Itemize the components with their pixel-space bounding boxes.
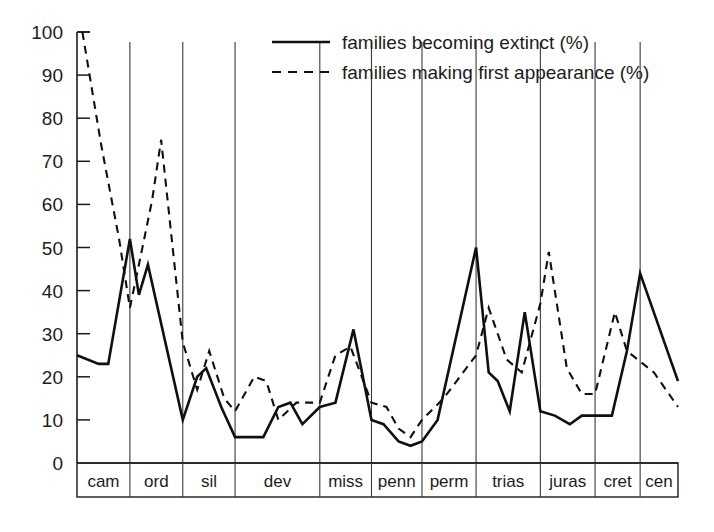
y-tick-label: 60 [42,194,63,215]
period-label-perm: perm [430,472,469,491]
y-tick-label: 0 [52,453,63,474]
period-label-cam: cam [87,472,119,491]
period-label-trias: trias [492,472,524,491]
y-tick-label: 10 [42,410,63,431]
chart-legend: families becoming extinct (%) families m… [272,32,649,83]
y-axis-tick-labels: 0102030405060708090100 [31,22,63,474]
period-label-cen: cen [645,472,672,491]
y-axis-tick-marks [77,32,90,420]
y-tick-label: 30 [42,324,63,345]
period-label-ord: ord [144,472,169,491]
period-label-sil: sil [201,472,217,491]
period-boundary-lines [130,42,640,463]
y-tick-label: 50 [42,238,63,259]
y-tick-label: 100 [31,22,63,43]
period-labels: camordsildevmisspennpermtriasjurascretce… [87,472,672,491]
y-tick-label: 20 [42,367,63,388]
period-label-dev: dev [264,472,292,491]
period-label-juras: juras [548,472,586,491]
geological-extinction-chart: 0102030405060708090100 camordsildevmissp… [0,0,714,532]
legend-label-first-appearance: families making first appearance (%) [342,62,649,83]
y-tick-label: 80 [42,108,63,129]
legend-label-extinct: families becoming extinct (%) [342,32,589,53]
period-label-miss: miss [328,472,363,491]
y-tick-label: 90 [42,65,63,86]
y-tick-label: 70 [42,151,63,172]
chart-canvas: 0102030405060708090100 camordsildevmissp… [0,0,714,532]
extinct-line [77,239,678,446]
period-label-cret: cret [603,472,632,491]
y-tick-label: 40 [42,281,63,302]
period-label-penn: penn [378,472,416,491]
